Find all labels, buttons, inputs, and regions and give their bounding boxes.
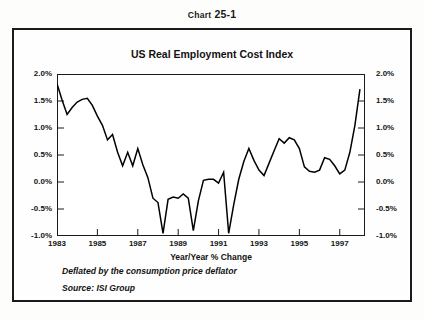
plot-border <box>58 75 365 236</box>
y-tick-label-right: 1.0% <box>370 123 416 132</box>
figure-page: Chart 25-1 US Real Employment Cost Index… <box>0 0 424 321</box>
y-tick-label-right: -0.5% <box>370 204 416 213</box>
x-tick-label: 1991 <box>210 239 228 248</box>
x-axis-label: Year/Year % Change <box>57 252 365 262</box>
y-tick-label-left: 1.0% <box>14 123 52 132</box>
chart-number-prefix: Chart <box>188 10 211 20</box>
y-axis-left-ticks: 2.0%1.5%1.0%0.5%0.0%-0.5%-1.0% <box>14 74 52 236</box>
y-tick-label-left: 1.5% <box>14 96 52 105</box>
note-deflator: Deflated by the consumption price deflat… <box>62 266 237 276</box>
y-tick-label-right: 0.5% <box>370 150 416 159</box>
x-tick-label: 1985 <box>88 239 106 248</box>
x-tick-label: 1993 <box>250 239 268 248</box>
x-axis-ticks: 19831985198719891991199319951997 <box>57 239 365 253</box>
y-tick-label-right: 2.0% <box>370 69 416 78</box>
plot-area <box>57 74 365 236</box>
y-tick-label-left: 2.0% <box>14 69 52 78</box>
y-tick-label-left: 0.5% <box>14 150 52 159</box>
x-tick-label: 1987 <box>129 239 147 248</box>
x-tick-label: 1989 <box>169 239 187 248</box>
line-chart-svg <box>57 74 365 236</box>
note-source: Source: ISI Group <box>62 283 135 293</box>
y-tick-label-left: 0.0% <box>14 177 52 186</box>
y-tick-label-right: 0.0% <box>370 177 416 186</box>
y-tick-label-left: -1.0% <box>14 231 52 240</box>
chart-number-heading: Chart 25-1 <box>0 8 424 20</box>
x-tick-label: 1997 <box>331 239 349 248</box>
y-tick-label-right: -1.0% <box>370 231 416 240</box>
y-axis-right-ticks: 2.0%1.5%1.0%0.5%0.0%-0.5%-1.0% <box>370 74 410 236</box>
chart-number-value: 25-1 <box>214 8 236 20</box>
y-tick-label-right: 1.5% <box>370 96 416 105</box>
chart-title: US Real Employment Cost Index <box>12 48 412 60</box>
y-tick-label-left: -0.5% <box>14 204 52 213</box>
x-tick-label: 1983 <box>48 239 66 248</box>
x-tick-label: 1995 <box>290 239 308 248</box>
